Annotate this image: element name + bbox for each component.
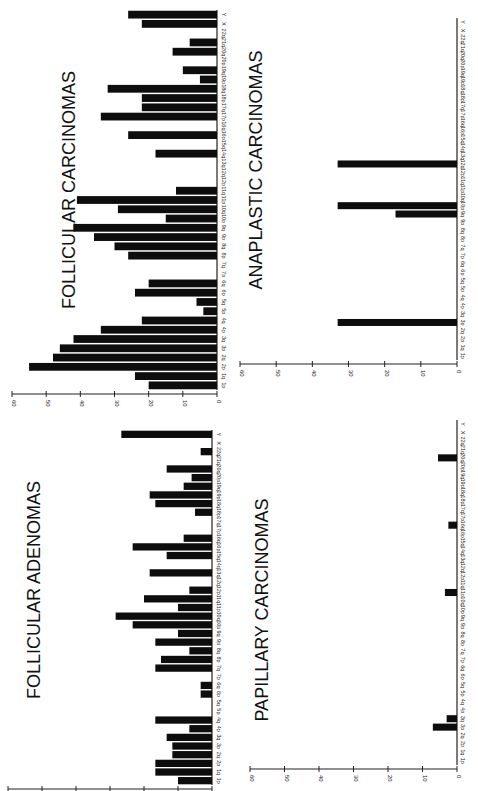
- bar: [167, 552, 212, 559]
- category-label: 18q: [460, 487, 466, 496]
- bar: [135, 372, 217, 380]
- category-label: 15q: [216, 551, 222, 560]
- category-label: 18q: [460, 84, 466, 93]
- category-label: 8q: [216, 648, 222, 654]
- bar: [128, 252, 217, 260]
- category-label: 16p: [221, 131, 227, 140]
- value-tick-label: 50: [45, 400, 51, 407]
- category-label: 10q: [460, 193, 466, 202]
- category-label: 11q: [460, 176, 466, 185]
- value-tick-label: 20: [387, 775, 393, 782]
- bar: [128, 131, 217, 139]
- category-label: 6p: [216, 691, 222, 697]
- category-label: 3p: [221, 345, 227, 351]
- category-label: 7p: [221, 271, 227, 277]
- bar: [338, 160, 457, 167]
- category-label: X: [460, 29, 466, 33]
- category-label: 7q: [216, 665, 222, 671]
- category-label: 22q: [221, 29, 227, 38]
- bar: [195, 509, 212, 516]
- value-tick-label: 40: [318, 775, 324, 782]
- category-label: 13q: [221, 158, 227, 167]
- value-tick-label: 50: [284, 775, 290, 782]
- category-label: 20p: [216, 473, 222, 482]
- category-label: 10p: [221, 214, 227, 223]
- bar: [448, 522, 457, 529]
- bar: [144, 595, 212, 602]
- category-label: 20p: [460, 462, 466, 471]
- bar: [128, 11, 217, 19]
- value-tick-label: 30: [114, 400, 120, 407]
- category-label: 12p: [460, 571, 466, 580]
- category-label: 10q: [221, 205, 227, 214]
- category-label: 20q: [460, 51, 466, 60]
- category-label: 2p: [460, 741, 466, 747]
- category-label: 5q: [460, 682, 466, 688]
- bar: [197, 298, 218, 306]
- bar: [101, 326, 217, 334]
- category-label: 10p: [460, 605, 466, 614]
- category-label: 6p: [460, 674, 466, 680]
- category-label: 9p: [460, 219, 466, 225]
- category-label: 21q: [460, 445, 466, 454]
- value-tick-label: 60: [11, 400, 17, 407]
- category-label: 16q: [460, 118, 466, 127]
- category-label: 2p: [221, 364, 227, 370]
- value-tick-label: 40: [311, 370, 317, 377]
- category-label: 3p: [216, 743, 222, 749]
- category-label: 1q: [460, 344, 466, 350]
- category-label: 10q: [216, 612, 222, 621]
- bar: [338, 319, 457, 326]
- category-label: 6p: [221, 290, 227, 296]
- category-label: 21q: [216, 456, 222, 465]
- chart-title: PAPILLARY CARCINOMAS: [252, 498, 272, 721]
- bar: [396, 211, 457, 218]
- category-label: X: [216, 441, 222, 445]
- category-label: 15q: [221, 140, 227, 149]
- value-tick-label: 10: [182, 400, 188, 407]
- bar: [29, 363, 217, 371]
- value-tick-label: 0: [456, 370, 462, 374]
- category-label: 17p: [216, 525, 222, 534]
- category-label: 6q: [221, 280, 227, 286]
- bar: [189, 647, 212, 654]
- category-label: 6q: [460, 665, 466, 671]
- bar: [142, 103, 217, 111]
- category-label: 8p: [460, 236, 466, 242]
- bar: [178, 777, 212, 784]
- value-tick-label: 30: [353, 775, 359, 782]
- bar: [135, 289, 217, 297]
- category-label: 9p: [460, 623, 466, 629]
- bar: [200, 76, 217, 84]
- category-label: 19q: [460, 68, 466, 77]
- category-label: 11q: [460, 580, 466, 589]
- category-label: 11p: [221, 196, 227, 205]
- category-label: 2q: [460, 328, 466, 334]
- category-label: 13q: [216, 568, 222, 577]
- bar: [178, 630, 212, 637]
- category-label: 16q: [460, 521, 466, 530]
- bar: [94, 233, 217, 241]
- bar: [133, 621, 212, 628]
- category-label: Y: [216, 432, 222, 436]
- value-tick-label: 10: [422, 775, 428, 782]
- category-label: 7q: [460, 244, 466, 250]
- category-label: 3q: [460, 716, 466, 722]
- category-label: 8q: [460, 632, 466, 638]
- category-label: 18p: [216, 508, 222, 517]
- category-label: 16p: [460, 126, 466, 135]
- category-label: 3q: [216, 734, 222, 740]
- category-label: 19p: [460, 76, 466, 85]
- category-label: 2p: [460, 336, 466, 342]
- bar: [150, 569, 212, 576]
- bar: [433, 724, 457, 731]
- category-label: 19p: [221, 75, 227, 84]
- category-label: 6q: [460, 261, 466, 267]
- category-label: 20p: [460, 59, 466, 68]
- bar: [142, 20, 217, 28]
- category-label: 17p: [460, 109, 466, 118]
- category-label: 4p: [460, 303, 466, 309]
- category-label: 6p: [460, 269, 466, 275]
- category-label: 12p: [221, 177, 227, 186]
- bar: [149, 280, 217, 288]
